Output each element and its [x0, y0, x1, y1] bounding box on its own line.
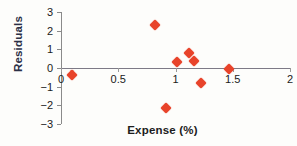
- y-tick-mark: [57, 87, 61, 88]
- x-tick-label: 1.5: [225, 73, 240, 85]
- data-point-marker: [171, 57, 182, 68]
- data-point-marker: [67, 69, 78, 80]
- y-tick-mark: [57, 105, 61, 106]
- y-tick-mark: [57, 31, 61, 32]
- data-point-marker: [149, 19, 160, 30]
- x-tick-mark: [118, 68, 119, 72]
- x-tick-mark: [290, 68, 291, 72]
- data-point-marker: [195, 77, 206, 88]
- y-tick-label: 1: [35, 43, 53, 55]
- y-tick-mark: [57, 12, 61, 13]
- x-tick-label: 1: [172, 73, 178, 85]
- x-tick-label: 0.5: [111, 73, 126, 85]
- x-axis-title: Expense (%): [0, 124, 297, 136]
- x-tick-label: 2: [287, 73, 293, 85]
- y-tick-label: 3: [35, 6, 53, 18]
- y-tick-label: 2: [35, 25, 53, 37]
- x-tick-label: 0: [58, 73, 64, 85]
- y-tick-label: −2: [35, 99, 53, 111]
- x-tick-mark: [176, 68, 177, 72]
- residual-scatter-chart: Residuals 3210−1−2−300.511.52 Expense (%…: [0, 0, 297, 146]
- y-tick-label: 0: [35, 62, 53, 74]
- y-tick-label: −1: [35, 81, 53, 93]
- x-tick-mark: [61, 68, 62, 72]
- data-point-marker: [161, 102, 172, 113]
- y-tick-mark: [57, 49, 61, 50]
